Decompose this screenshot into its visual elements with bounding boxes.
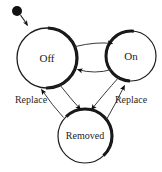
state-removed[interactable]: Removed	[58, 109, 112, 163]
state-removed-label: Removed	[66, 130, 104, 141]
transition-on-to-off	[78, 70, 112, 73]
initial-state-dot	[12, 6, 22, 16]
state-off-label: Off	[39, 52, 54, 64]
transition-label-removed-to-on: Replace	[115, 94, 148, 105]
state-on[interactable]: On	[106, 31, 156, 81]
transition-start-to-off	[21, 15, 28, 25]
state-on-label: On	[124, 50, 138, 62]
transition-off-to-removed	[60, 85, 81, 110]
state-machine-diagram: Off On Removed Replace Replace	[0, 0, 162, 172]
transition-label-removed-to-off: Replace	[15, 94, 48, 105]
state-off[interactable]: Off	[17, 28, 77, 88]
state-diagram-canvas: Off On Removed Replace Replace	[0, 0, 162, 172]
